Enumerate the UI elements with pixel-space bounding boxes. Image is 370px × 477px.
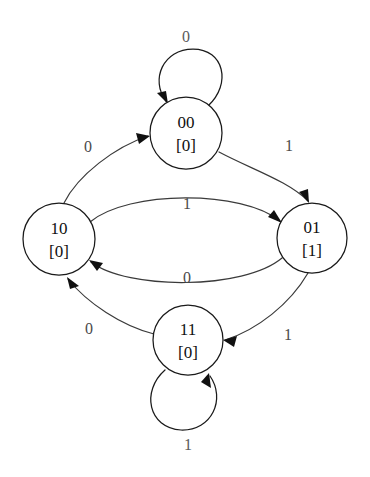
state-node-11-circle <box>153 305 223 375</box>
state-node-10-name: 10 <box>51 219 68 238</box>
transition-00-to-01[interactable]: 1 <box>219 137 309 203</box>
self-loop-00-arrowhead <box>157 91 168 104</box>
transition-11-to-10[interactable]: 0 <box>67 277 154 337</box>
state-node-01-output: [1] <box>302 241 322 260</box>
state-node-00[interactable]: 00 [0] <box>150 97 222 169</box>
transition-01-to-11-path <box>225 273 308 340</box>
state-node-01-circle <box>277 203 347 273</box>
fsm-canvas: 0 1 1 0 1 0 <box>0 0 370 477</box>
state-node-00-name: 00 <box>178 113 195 132</box>
self-loop-11-label: 1 <box>184 436 192 453</box>
self-loop-11[interactable]: 1 <box>151 370 217 453</box>
transition-10-to-01-label: 1 <box>183 195 191 212</box>
self-loop-00[interactable]: 0 <box>157 28 222 106</box>
transition-00-to-01-arrowhead <box>299 189 309 203</box>
transition-10-to-00-arrowhead <box>136 133 150 144</box>
transition-00-to-01-path <box>219 152 308 201</box>
state-node-00-circle <box>150 97 222 169</box>
transition-11-to-10-label: 0 <box>85 320 93 337</box>
transition-11-to-10-arrowhead <box>67 277 79 289</box>
state-node-10[interactable]: 10 [0] <box>23 203 95 275</box>
transition-01-to-11-arrowhead <box>223 336 237 347</box>
transition-01-to-10-arrowhead <box>89 260 103 271</box>
self-loop-00-label: 0 <box>182 28 190 45</box>
transition-10-to-01-arrowhead <box>268 210 282 223</box>
transition-01-to-11-label: 1 <box>284 326 292 343</box>
state-node-10-circle <box>23 203 95 275</box>
transition-10-to-00-path <box>64 136 148 203</box>
state-node-01[interactable]: 01 [1] <box>277 203 347 273</box>
state-node-10-output: [0] <box>49 242 69 261</box>
state-machine-diagram: 0 1 1 0 1 0 <box>0 0 370 477</box>
transition-10-to-00-label: 0 <box>84 138 92 155</box>
state-node-11[interactable]: 11 [0] <box>153 305 223 375</box>
state-node-00-output: [0] <box>176 136 196 155</box>
transition-10-to-01[interactable]: 1 <box>90 195 282 223</box>
transition-10-to-00[interactable]: 0 <box>64 133 150 203</box>
self-loop-11-arrowhead <box>201 373 211 388</box>
transition-11-to-10-path <box>68 279 154 334</box>
transition-01-to-11[interactable]: 1 <box>223 273 308 347</box>
transition-00-to-01-label: 1 <box>285 137 293 154</box>
state-node-01-name: 01 <box>304 218 321 237</box>
transition-01-to-10-label: 0 <box>183 269 191 286</box>
state-node-11-name: 11 <box>180 320 196 339</box>
state-node-11-output: [0] <box>178 343 198 362</box>
transition-01-to-10[interactable]: 0 <box>89 258 282 286</box>
